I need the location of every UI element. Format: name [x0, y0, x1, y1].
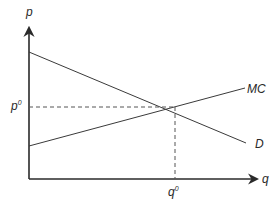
demand-label: D: [255, 137, 264, 151]
equilibrium-price-label: p0: [10, 99, 22, 113]
quantity-superscript: 0: [175, 185, 179, 192]
supply-demand-diagram: p q MC D p0 q0: [0, 0, 278, 209]
equilibrium-quantity-label: q0: [168, 185, 179, 199]
mc-curve: [29, 88, 245, 146]
price-superscript: 0: [18, 99, 22, 106]
x-axis-label: q: [262, 172, 269, 186]
mc-label: MC: [247, 82, 266, 96]
demand-curve: [29, 52, 246, 143]
y-axis-label: p: [25, 5, 33, 19]
